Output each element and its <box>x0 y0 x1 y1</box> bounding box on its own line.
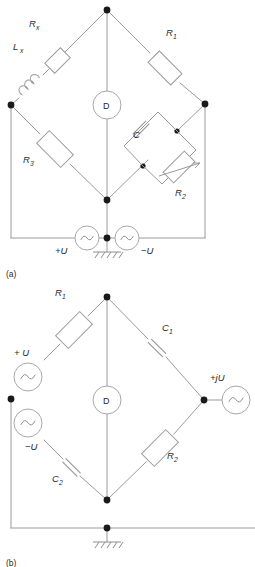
circuit-diagram-canvas: R x L x R 1 R 3 <box>0 0 255 567</box>
label-rx: R <box>29 18 36 29</box>
source-b-plus-ju <box>222 386 250 414</box>
label-source-minus-u: −U <box>141 245 154 256</box>
wire-r3-to-bottom-node <box>70 164 107 200</box>
label-r3: R <box>23 154 30 165</box>
variable-resistor-r2 <box>159 151 200 183</box>
wire-cr2-to-right-node <box>177 104 205 131</box>
inductor-lx <box>17 73 40 96</box>
resistor-r3 <box>37 131 74 168</box>
wire-b-source-to-c2 <box>44 440 63 459</box>
label-c: C <box>133 129 140 140</box>
label-b-source-plus-ju: +jU <box>210 372 225 383</box>
label-b-r2: R <box>167 450 174 461</box>
wire-b-top-to-c1 <box>107 297 148 339</box>
wire-b-r2-to-right <box>174 400 204 434</box>
ground-icon-a <box>93 252 123 258</box>
node-b-top <box>104 294 111 301</box>
wire-b-c2-to-bottom <box>80 476 107 500</box>
label-b-c2-sub: 2 <box>58 479 63 486</box>
circuit-figure: R x L x R 1 R 3 <box>0 0 255 567</box>
label-b-c2: C <box>52 473 59 484</box>
label-r3-sub: 3 <box>30 160 34 167</box>
label-r2-sub: 2 <box>181 193 186 200</box>
source-b-minus-u <box>14 409 42 437</box>
label-b-c1: C <box>162 322 169 333</box>
node-b-left <box>8 396 15 403</box>
wire-left-to-r3 <box>11 105 40 134</box>
panel-b: R 1 C 1 C 2 R 2 D <box>6 287 255 567</box>
ground-icon-b <box>93 542 123 548</box>
node-a-left <box>8 102 15 109</box>
node-b-bottom <box>104 497 111 504</box>
wire-b-top-to-r1 <box>88 297 107 316</box>
resistor-r1 <box>148 51 182 85</box>
label-detector: D <box>103 101 110 111</box>
label-b-c1-sub: 1 <box>169 328 173 335</box>
source-minus-u <box>115 226 139 250</box>
source-b-plus-u <box>14 363 42 391</box>
node-a-supply-center <box>104 235 111 242</box>
wire-top-to-r1 <box>107 10 150 53</box>
wire-b-bottom-to-r2 <box>107 462 146 500</box>
wire-capacitor-branch <box>124 112 177 166</box>
label-b-r2-sub: 2 <box>173 456 178 463</box>
label-r2: R <box>175 187 182 198</box>
label-b-r1: R <box>55 287 62 298</box>
capacitor-b-c2 <box>63 459 80 476</box>
wire-b-r1-to-source <box>44 344 60 360</box>
source-plus-u <box>75 226 99 250</box>
detector-d: D <box>93 91 121 119</box>
node-b-right <box>201 397 208 404</box>
label-r1-sub: 1 <box>173 33 177 40</box>
resistor-b-r1 <box>56 312 93 349</box>
label-r1: R <box>166 27 173 38</box>
detector-b-d: D <box>93 386 121 414</box>
capacitor-b-c1 <box>148 339 165 356</box>
label-lx-sub: x <box>19 47 24 54</box>
label-b-source-plus-u: + U <box>14 347 29 358</box>
node-a-bottom <box>104 197 111 204</box>
panel-a: R x L x R 1 R 3 <box>6 7 208 279</box>
label-lx: L <box>13 41 18 52</box>
label-b-detector: D <box>103 396 110 406</box>
wire-top-to-rx <box>63 10 107 54</box>
caption-b: (b) <box>6 558 17 567</box>
parallel-c-r2-block: C R 2 <box>124 112 200 200</box>
caption-a: (a) <box>6 269 17 279</box>
label-b-source-minus-u: −U <box>25 441 38 452</box>
label-b-r1-sub: 1 <box>62 293 66 300</box>
wire-b-c1-to-right <box>166 357 204 400</box>
node-b-ground-rail <box>104 525 111 532</box>
node-a-top <box>104 7 111 14</box>
wire-r1-to-right-node <box>180 83 205 104</box>
label-source-plus-u: +U <box>55 245 68 256</box>
node-a-right <box>202 101 209 108</box>
label-rx-sub: x <box>35 24 40 31</box>
